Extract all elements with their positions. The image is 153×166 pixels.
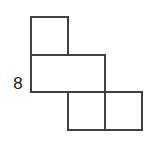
geometry-figure: 8	[0, 0, 153, 166]
polyomino-outline-path	[31, 17, 142, 130]
side-length-label-8: 8	[10, 74, 26, 94]
